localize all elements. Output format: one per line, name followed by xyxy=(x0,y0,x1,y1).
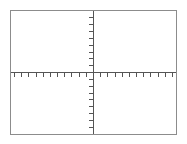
x-axis-tick xyxy=(71,73,72,77)
x-axis-tick xyxy=(150,73,151,77)
y-axis-tick xyxy=(89,127,93,128)
y-axis-tick xyxy=(89,65,93,66)
y-axis-tick xyxy=(89,79,93,80)
x-axis-tick xyxy=(86,73,87,77)
y-axis-tick xyxy=(89,58,93,59)
y-axis-tick xyxy=(89,86,93,87)
figure-root xyxy=(0,0,187,144)
x-axis-tick xyxy=(165,73,166,77)
x-axis-tick xyxy=(57,73,58,77)
x-axis-tick xyxy=(79,73,80,77)
x-axis-tick xyxy=(143,73,144,77)
x-axis-tick xyxy=(64,73,65,77)
y-axis-tick xyxy=(89,45,93,46)
y-axis-tick xyxy=(89,31,93,32)
x-axis-tick xyxy=(136,73,137,77)
x-axis-tick xyxy=(129,73,130,77)
y-axis-line xyxy=(93,11,94,134)
x-axis-tick xyxy=(43,73,44,77)
y-axis-tick xyxy=(89,99,93,100)
x-axis-tick xyxy=(107,73,108,77)
x-axis-tick xyxy=(28,73,29,77)
x-axis-tick xyxy=(122,73,123,77)
y-axis-tick xyxy=(89,120,93,121)
x-axis-tick xyxy=(172,73,173,77)
y-axis-tick xyxy=(89,17,93,18)
plot-frame xyxy=(10,10,177,135)
y-axis-tick xyxy=(89,38,93,39)
y-axis-tick xyxy=(89,93,93,94)
x-axis-tick xyxy=(50,73,51,77)
y-axis-tick xyxy=(89,113,93,114)
x-axis-tick xyxy=(21,73,22,77)
x-axis-tick xyxy=(100,73,101,77)
x-axis-tick xyxy=(158,73,159,77)
y-axis-tick xyxy=(89,52,93,53)
x-axis-tick xyxy=(115,73,116,77)
x-axis-tick xyxy=(36,73,37,77)
y-axis-tick xyxy=(89,24,93,25)
y-axis-tick xyxy=(89,106,93,107)
x-axis-tick xyxy=(14,73,15,77)
